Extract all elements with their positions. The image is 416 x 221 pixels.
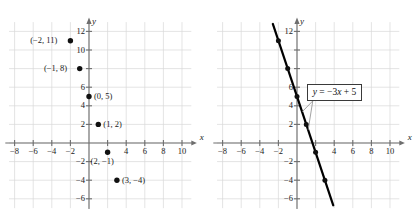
y-tick-label: 2 (278, 120, 293, 129)
point-coordinate-label: (2, −1) (91, 157, 114, 166)
x-tick-label: −6 (27, 147, 39, 156)
equation-equals: = (317, 87, 327, 97)
data-point (313, 150, 318, 155)
y-tick-label: 12 (70, 27, 85, 36)
data-point (96, 122, 101, 127)
data-point (276, 38, 281, 43)
data-point (304, 122, 309, 127)
y-tick-label: −2 (70, 157, 85, 166)
point-coordinate-label: (3, −4) (122, 176, 145, 185)
x-tick-label: −6 (235, 147, 247, 156)
data-point (105, 150, 110, 155)
y-tick-label: 6 (278, 83, 293, 92)
x-tick-label: −2 (272, 147, 284, 156)
y-tick-label: 12 (278, 27, 293, 36)
data-point (295, 94, 300, 99)
data-point (77, 66, 82, 71)
x-tick-label: 8 (365, 147, 377, 156)
y-tick-label: −4 (278, 176, 293, 185)
y-tick-label: 10 (70, 46, 85, 55)
y-tick-label: −6 (70, 194, 85, 203)
equation-coefficient: −3 (327, 87, 337, 97)
plot-svg (0, 0, 208, 221)
grid-lines (217, 22, 399, 208)
point-coordinate-label: (0, 5) (94, 92, 112, 101)
figure-container: −8−6−4−2468101210642−2−4−6xy(−2, 11)(−1,… (0, 0, 416, 221)
x-tick-label: −8 (217, 147, 229, 156)
x-axis-label: x (408, 133, 412, 142)
scatter-plot-panel: −8−6−4−2468101210642−2−4−6xy(−2, 11)(−1,… (0, 0, 208, 221)
y-tick-label: 4 (70, 101, 85, 110)
x-tick-label: 8 (157, 147, 169, 156)
point-coordinate-label: (1, 2) (103, 120, 121, 129)
plot-svg (208, 0, 416, 221)
y-tick-label: 2 (70, 120, 85, 129)
data-point (68, 38, 73, 43)
x-tick-label: 4 (120, 147, 132, 156)
equation-callout-box: y = −3x + 5 (307, 84, 363, 101)
y-axis-label: y (300, 17, 304, 26)
data-point (285, 66, 290, 71)
x-tick-label: −8 (9, 147, 21, 156)
x-tick-label: 10 (176, 147, 188, 156)
equation-constant: + 5 (341, 87, 356, 97)
grid-lines (9, 22, 191, 208)
point-coordinate-label: (−2, 11) (30, 36, 57, 45)
y-tick-label: −6 (278, 194, 293, 203)
y-tick-label: −2 (278, 157, 293, 166)
x-tick-label: −4 (46, 147, 58, 156)
y-tick-label: 6 (70, 83, 85, 92)
point-coordinate-label: (−1, 8) (44, 64, 67, 73)
line-plot-panel: −8−6−4−24681012642−2−4−6xyy = −3x + 5 (208, 0, 416, 221)
y-axis-label: y (92, 17, 96, 26)
x-tick-label: 6 (347, 147, 359, 156)
x-tick-label: −2 (64, 147, 76, 156)
y-tick-label: 4 (278, 101, 293, 110)
x-tick-label: 4 (328, 147, 340, 156)
axis-ticks (223, 31, 390, 198)
axis-ticks (15, 31, 182, 198)
x-tick-label: −4 (254, 147, 266, 156)
y-tick-label: −4 (70, 176, 85, 185)
x-axis-label: x (200, 133, 204, 142)
data-point (322, 178, 327, 183)
data-point (86, 94, 91, 99)
x-tick-label: 10 (384, 147, 396, 156)
data-point (114, 178, 119, 183)
x-tick-label: 6 (139, 147, 151, 156)
